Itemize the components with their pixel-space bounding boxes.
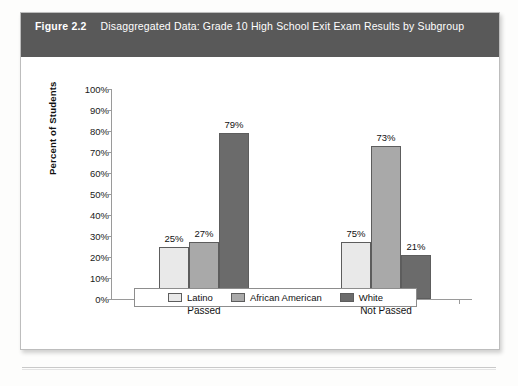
plot-region: 25%27%79%75%73%21% PassedNot Passed	[111, 89, 471, 299]
bar-value-label: 25%	[164, 233, 183, 244]
legend-item[interactable]: Latino	[168, 292, 213, 303]
y-axis-tick-labels: 100%90%80%70%60%50%40%30%20%10%0%	[59, 89, 109, 299]
y-tick-label: 100%	[85, 84, 109, 95]
bar-value-label: 73%	[376, 132, 395, 143]
page-divider-rule-shadow	[22, 369, 496, 370]
bar-value-label: 79%	[224, 119, 243, 130]
legend-swatch-icon	[168, 293, 182, 302]
page-divider-rule	[22, 367, 496, 368]
x-tick-mark	[459, 299, 460, 304]
y-tick-mark	[107, 299, 111, 300]
bar: 79%	[219, 133, 249, 299]
legend-label: African American	[250, 292, 322, 303]
figure-number: Figure 2.2	[35, 19, 87, 57]
chart-legend: LatinoAfrican AmericanWhite	[134, 288, 417, 307]
figure-container: Figure 2.2 Disaggregated Data: Grade 10 …	[20, 12, 500, 350]
legend-swatch-icon	[231, 293, 245, 302]
bar-series-group: 25%27%79%75%73%21%	[111, 89, 471, 299]
legend-label: Latino	[187, 292, 213, 303]
legend-label: White	[359, 292, 383, 303]
bar-value-label: 21%	[406, 241, 425, 252]
bar-value-label: 75%	[346, 228, 365, 239]
legend-item[interactable]: White	[340, 292, 383, 303]
bar: 73%	[371, 146, 401, 299]
figure-title: Disaggregated Data: Grade 10 High School…	[101, 19, 465, 57]
bar-value-label: 27%	[194, 228, 213, 239]
legend-swatch-icon	[340, 293, 354, 302]
y-axis-title: Percent of Students	[47, 81, 58, 175]
figure-header: Figure 2.2 Disaggregated Data: Grade 10 …	[21, 13, 499, 57]
legend-item[interactable]: African American	[231, 292, 322, 303]
